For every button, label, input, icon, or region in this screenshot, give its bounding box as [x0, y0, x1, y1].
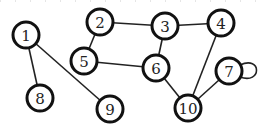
node-4: 4: [208, 10, 234, 36]
node-5: 5: [71, 48, 97, 74]
node-label: 1: [21, 27, 31, 45]
node-label: 2: [95, 14, 105, 32]
node-2: 2: [87, 9, 113, 35]
node-label: 6: [151, 60, 161, 78]
node-10: 10: [175, 95, 201, 121]
node-label: 10: [178, 100, 197, 118]
node-6: 6: [143, 55, 169, 81]
node-label: 3: [160, 18, 170, 36]
node-1: 1: [13, 22, 39, 48]
node-label: 8: [35, 90, 45, 108]
node-label: 4: [216, 15, 226, 33]
node-label: 7: [224, 63, 234, 81]
graph-diagram: 12345678910: [0, 0, 266, 130]
node-label: 9: [105, 101, 115, 119]
node-7: 7: [216, 58, 242, 84]
node-8: 8: [27, 85, 53, 111]
node-label: 5: [79, 53, 89, 71]
node-3: 3: [152, 13, 178, 39]
node-9: 9: [97, 96, 123, 122]
